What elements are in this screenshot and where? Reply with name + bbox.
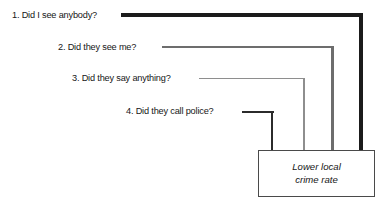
- connector-4-horizontal-segment: [242, 111, 274, 113]
- question-label-2: 2. Did they see me?: [58, 43, 136, 52]
- connector-2-vertical-segment: [331, 46, 334, 153]
- connector-2-horizontal-segment: [162, 46, 334, 48]
- connector-4-vertical-segment: [271, 111, 273, 153]
- outcome-box: Lower local crime rate: [258, 150, 375, 197]
- outcome-text-line-2: crime rate: [295, 174, 338, 187]
- connector-3-horizontal-segment: [199, 78, 305, 79]
- question-label-1: 1. Did I see anybody?: [12, 11, 97, 20]
- question-label-4: 4. Did they call police?: [126, 107, 214, 116]
- question-label-3: 3. Did they say anything?: [72, 74, 171, 83]
- outcome-text-line-1: Lower local: [292, 161, 341, 174]
- diagram-canvas: 1. Did I see anybody? 2. Did they see me…: [0, 0, 390, 208]
- connector-3-vertical-segment: [303, 78, 305, 153]
- connector-1-horizontal-segment: [121, 13, 363, 17]
- connector-1-vertical-segment: [359, 13, 363, 153]
